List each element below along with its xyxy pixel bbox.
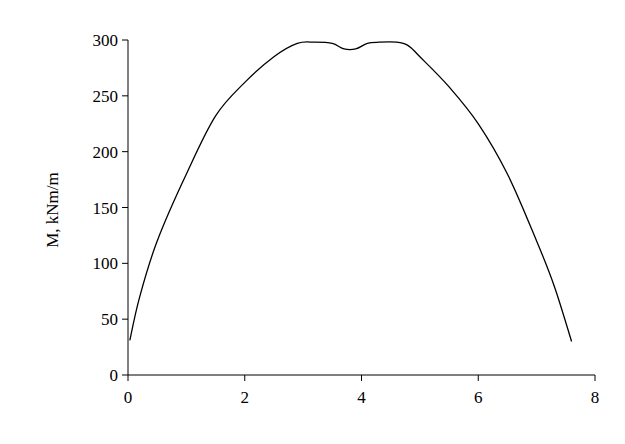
y-axis-title: M, kNm/m [43, 172, 62, 248]
x-tick-label: 0 [124, 388, 133, 407]
x-axis: 02468 [124, 375, 600, 407]
y-tick-label: 150 [93, 199, 119, 218]
moment-curve [130, 42, 572, 342]
x-tick-label: 2 [241, 388, 250, 407]
y-axis: 050100150200250300 [93, 31, 129, 385]
y-tick-label: 0 [110, 366, 119, 385]
y-tick-label: 100 [93, 254, 119, 273]
y-tick-label: 200 [93, 143, 119, 162]
moment-line-chart: 050100150200250300 02468 M, kNm/m [0, 0, 625, 444]
y-tick-label: 300 [93, 31, 119, 50]
y-tick-label: 50 [101, 310, 118, 329]
x-tick-label: 6 [474, 388, 483, 407]
y-tick-label: 250 [93, 87, 119, 106]
x-tick-label: 8 [591, 388, 600, 407]
x-tick-label: 4 [357, 388, 366, 407]
